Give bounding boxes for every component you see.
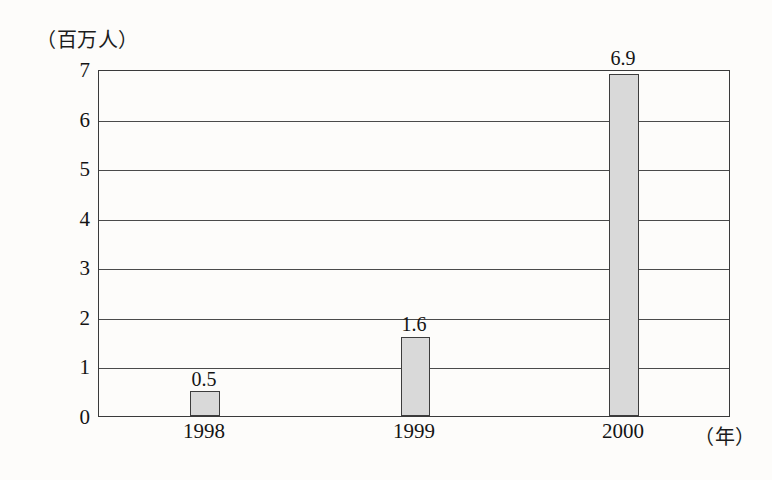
bar-1999	[401, 337, 430, 416]
y-tick-label-1: 1	[50, 357, 90, 378]
x-tick-label-1998: 1998	[183, 421, 225, 442]
bar-value-label-1998: 0.5	[192, 369, 217, 389]
x-axis-unit-label: （年）	[694, 421, 756, 450]
y-tick-label-6: 6	[50, 109, 90, 130]
bar-value-label-2000: 6.9	[611, 48, 636, 68]
plot-area	[98, 70, 730, 417]
bar-value-label-1999: 1.6	[402, 314, 427, 334]
y-tick-label-4: 4	[50, 208, 90, 229]
y-tick-label-0: 0	[50, 407, 90, 428]
y-tick-label-3: 3	[50, 258, 90, 279]
y-tick-label-2: 2	[50, 307, 90, 328]
y-tick-label-5: 5	[50, 159, 90, 180]
bar-2000	[609, 74, 639, 416]
y-axis-tick-labels: 7 6 5 4 3 2 1 0	[42, 0, 90, 480]
y-tick-label-7: 7	[50, 60, 90, 81]
bar-chart-figure: （百万人） 7 6 5 4 3 2 1 0 0.5 1.6 6.9 1998 1…	[0, 0, 772, 480]
bar-1998	[190, 391, 220, 416]
x-tick-label-1999: 1999	[393, 421, 435, 442]
x-tick-label-2000: 2000	[602, 421, 644, 442]
